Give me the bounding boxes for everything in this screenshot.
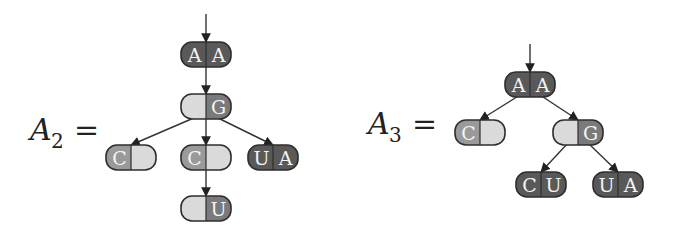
node-right-letter: G bbox=[211, 96, 226, 118]
node-right-letter: A bbox=[278, 147, 293, 169]
node-left-letter: U bbox=[253, 147, 269, 169]
node-left-letter: C bbox=[187, 147, 202, 169]
node-left-letter: C bbox=[522, 174, 537, 196]
node-left-letter: C bbox=[461, 122, 476, 144]
node-g: G bbox=[553, 120, 603, 145]
node-aa: AA bbox=[181, 42, 231, 67]
label-subscript: 2 bbox=[51, 129, 64, 153]
edge-arrow-icon bbox=[588, 143, 618, 172]
label-subscript: 3 bbox=[389, 123, 402, 147]
equals-sign: = bbox=[412, 106, 437, 141]
node-left-letter: U bbox=[598, 174, 614, 196]
node-right-letter: G bbox=[583, 122, 598, 144]
label-main: A bbox=[365, 106, 390, 141]
node-aa: AA bbox=[505, 72, 555, 97]
node-ua: UA bbox=[593, 172, 643, 197]
equation-labels: A2=A3= bbox=[27, 106, 437, 153]
node-c2: C bbox=[181, 145, 231, 170]
node-left-letter: A bbox=[511, 74, 526, 96]
node-right-letter: A bbox=[535, 74, 550, 96]
node-right-letter: A bbox=[211, 44, 226, 66]
node-right-letter: U bbox=[545, 174, 561, 196]
node-right-letter: U bbox=[210, 198, 226, 220]
node-u: U bbox=[181, 196, 231, 221]
node-right-letter: A bbox=[623, 174, 638, 196]
node-ua: UA bbox=[248, 145, 298, 170]
node-c: C bbox=[455, 120, 505, 145]
tree-diagram: A2=A3= AAGCCUAUAACGCUUA bbox=[0, 0, 674, 234]
tree-label-2: A2= bbox=[27, 112, 99, 153]
edge-arrow-icon bbox=[540, 95, 578, 120]
node-cu: CU bbox=[516, 172, 566, 197]
edge-arrow-icon bbox=[480, 95, 520, 120]
tree-label-3: A3= bbox=[365, 106, 437, 147]
edge-arrow-icon bbox=[541, 143, 568, 172]
edge-arrow-icon bbox=[131, 117, 196, 145]
node-c1: C bbox=[106, 145, 156, 170]
edge-arrow-icon bbox=[216, 117, 273, 145]
node-g: G bbox=[181, 94, 231, 119]
label-main: A bbox=[27, 112, 52, 147]
equals-sign: = bbox=[74, 112, 99, 147]
node-left-letter: C bbox=[112, 147, 127, 169]
node-left-letter: A bbox=[187, 44, 202, 66]
